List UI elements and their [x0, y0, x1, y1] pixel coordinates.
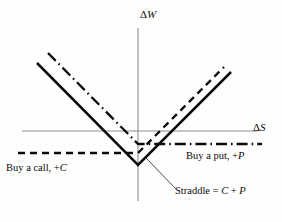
- x-axis-label: ΔS: [253, 122, 266, 133]
- straddle-label-put-symbol: P: [239, 185, 245, 196]
- label-straddle: Straddle = C + P: [175, 186, 246, 197]
- put-label-text: Buy a put, +: [186, 150, 238, 161]
- put-label-symbol: P: [238, 150, 244, 161]
- y-axis-label: ΔW: [140, 9, 156, 20]
- call-label-text: Buy a call, +: [6, 162, 60, 173]
- options-payoff-diagram: ΔW ΔS Buy a call, +C Buy a put, +P Strad…: [0, 0, 282, 222]
- straddle-label-plus: +: [228, 185, 239, 196]
- series-buy-a-put: [48, 53, 262, 144]
- put-payoff-path: [48, 53, 262, 144]
- label-buy-a-put: Buy a put, +P: [186, 151, 244, 162]
- straddle-leader-group: [146, 158, 176, 189]
- straddle-label-prefix: Straddle =: [175, 185, 221, 196]
- call-label-symbol: C: [60, 162, 67, 173]
- axes-group: [22, 28, 258, 201]
- label-buy-a-call: Buy a call, +C: [6, 163, 67, 174]
- x-axis-variable: S: [260, 121, 266, 133]
- straddle-leader-line: [146, 158, 176, 189]
- y-axis-variable: W: [147, 8, 156, 20]
